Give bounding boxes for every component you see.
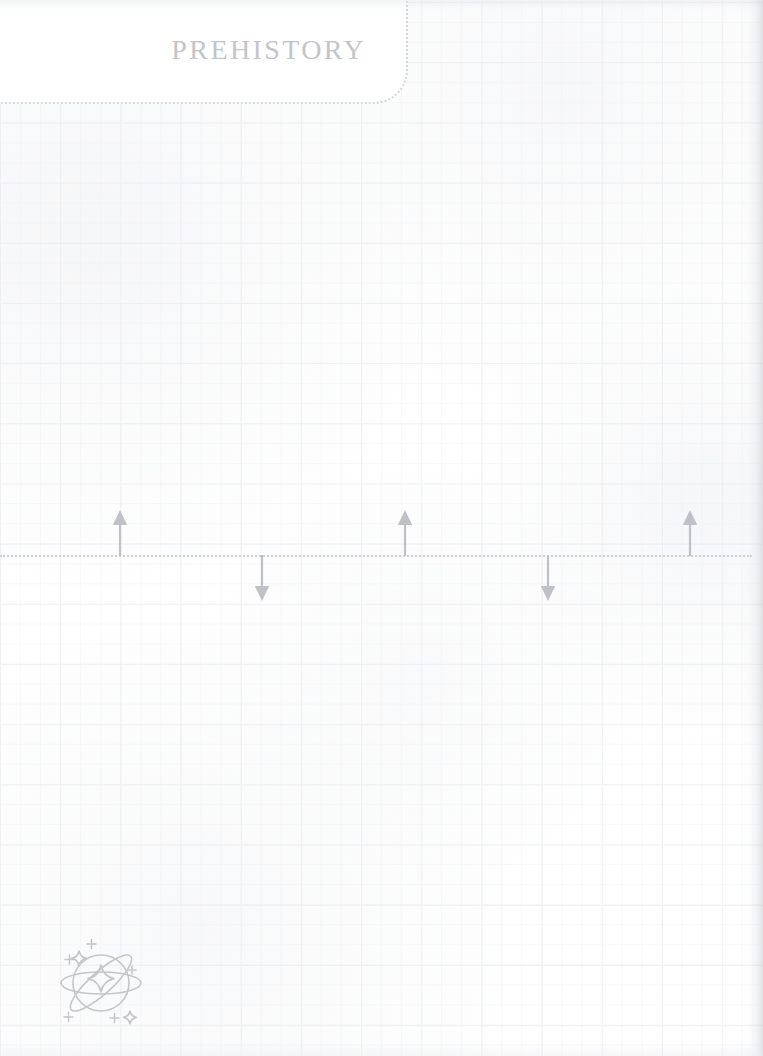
timeline-marker-up-1[interactable]	[108, 508, 132, 558]
prehistory-timeline-page: PREHISTORY	[0, 0, 763, 1056]
page-title: PREHISTORY	[0, 34, 366, 66]
timeline-marker-up-3[interactable]	[678, 508, 702, 558]
page-edge-right	[737, 0, 763, 1056]
page-edge-bottom	[0, 1044, 763, 1056]
timeline-marker-down-1[interactable]	[250, 553, 274, 603]
header-panel: PREHISTORY	[0, 0, 408, 104]
timeline-marker-down-2[interactable]	[536, 553, 560, 603]
timeline-marker-up-2[interactable]	[393, 508, 417, 558]
planet-sparkle-icon	[54, 932, 148, 1028]
